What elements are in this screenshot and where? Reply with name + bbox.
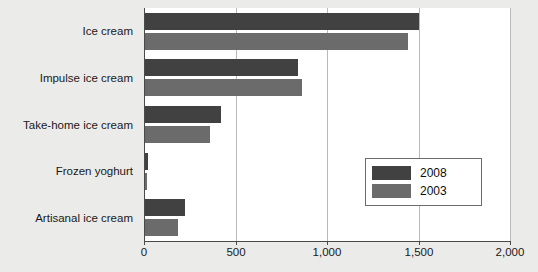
category-label: Frozen yoghurt <box>0 165 133 177</box>
legend-swatch-2008 <box>372 166 411 180</box>
tick-mark-2000 <box>510 241 511 245</box>
bar-2003-ice-cream <box>144 33 408 50</box>
tick-mark-1500 <box>419 241 420 245</box>
plot-area <box>144 8 510 241</box>
x-tick-label: 1,000 <box>313 246 342 258</box>
bar-2003-take-home-ice-cream <box>144 126 210 143</box>
legend-label-2003: 2003 <box>420 184 447 198</box>
category-label: Artisanal ice cream <box>0 212 133 224</box>
legend-item-2003: 2003 <box>372 182 475 200</box>
tick-mark-0 <box>144 241 145 245</box>
gridline-2000 <box>510 8 511 241</box>
bar-2003-impulse-ice-cream <box>144 79 302 96</box>
x-tick-label: 500 <box>226 246 245 258</box>
gridline-1500 <box>419 8 420 241</box>
legend-item-2008: 2008 <box>372 164 475 182</box>
bar-chart: Ice creamImpulse ice creamTake-home ice … <box>0 0 538 272</box>
legend-label-2008: 2008 <box>420 166 447 180</box>
x-tick-label: 2,000 <box>496 246 525 258</box>
bar-2008-ice-cream <box>144 13 419 30</box>
y-axis-line <box>144 8 145 242</box>
chart-legend: 2008 2003 <box>365 158 482 206</box>
x-tick-label: 1,500 <box>405 246 434 258</box>
bar-2008-artisanal-ice-cream <box>144 199 185 216</box>
legend-swatch-2003 <box>372 184 411 198</box>
x-tick-label: 0 <box>141 246 147 258</box>
bar-2003-artisanal-ice-cream <box>144 219 178 236</box>
category-label: Ice cream <box>0 25 133 37</box>
bar-2008-take-home-ice-cream <box>144 106 221 123</box>
category-label: Impulse ice cream <box>0 72 133 84</box>
category-label: Take-home ice cream <box>0 119 133 131</box>
category-axis-labels: Ice creamImpulse ice creamTake-home ice … <box>0 8 138 241</box>
tick-mark-1000 <box>327 241 328 245</box>
bar-2008-impulse-ice-cream <box>144 59 298 76</box>
tick-mark-500 <box>236 241 237 245</box>
